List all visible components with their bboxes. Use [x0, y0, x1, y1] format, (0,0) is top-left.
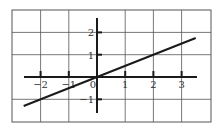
x-tick-label: 2: [150, 79, 156, 90]
x-tick-label: 0: [90, 79, 96, 90]
plot-border: [12, 10, 211, 122]
y-tick-label: 2: [88, 27, 94, 38]
series-line: [24, 38, 196, 106]
y-tick-label: 1: [88, 50, 94, 61]
x-tick-label: 1: [122, 79, 128, 90]
x-tick-label: 3: [178, 79, 184, 90]
function-graph: −2−1012321−1: [0, 0, 220, 125]
y-tick-label: −1: [79, 94, 94, 105]
grid: [12, 10, 211, 122]
x-tick-label: −2: [33, 79, 48, 90]
plot-line: [24, 38, 196, 106]
